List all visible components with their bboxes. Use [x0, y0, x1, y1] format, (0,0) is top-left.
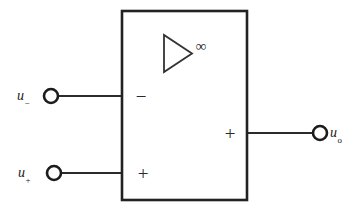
noninverting-input-label: u+	[18, 166, 30, 183]
noninverting-input-label-subscript: +	[26, 175, 31, 185]
inverting-input-sign: −	[136, 86, 147, 107]
schematic-canvas: ∞ − + +	[0, 0, 353, 216]
noninverting-input-label-base: u	[18, 165, 25, 180]
inverting-input-terminal[interactable]	[44, 89, 58, 103]
output-label-subscript: o	[338, 135, 343, 145]
inverting-input-label-subscript: −	[25, 98, 30, 108]
output-label: uo	[330, 126, 342, 143]
inverting-input-label: u−	[17, 89, 29, 106]
inverting-input-label-base: u	[17, 88, 24, 103]
opamp-diagram: ∞ − + + u− u+ uo	[0, 0, 353, 216]
output-sign: +	[225, 123, 236, 144]
output-terminal[interactable]	[313, 126, 327, 140]
noninverting-input-terminal[interactable]	[47, 166, 61, 180]
amplifier-triangle-icon	[164, 35, 192, 72]
noninverting-input-sign: +	[138, 163, 149, 184]
infinity-gain-label: ∞	[196, 38, 207, 54]
output-label-base: u	[330, 125, 337, 140]
